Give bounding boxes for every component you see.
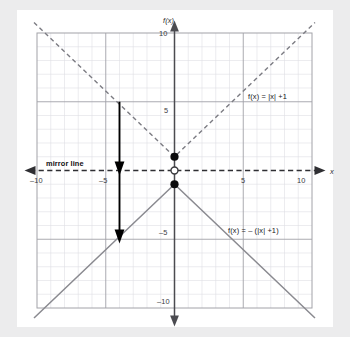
point-origin [171,167,178,174]
y-tick-neg10: –10 [157,297,170,306]
y-axis-label: f(x) [163,16,174,25]
x-tick-10: 10 [297,176,305,185]
x-axis-label: x [330,167,334,176]
mirror-line-label: mirror line [46,159,84,168]
coordinate-plane-svg [0,0,350,337]
equation-label-top: f(x) = |x| +1 [248,92,287,101]
figure-stage: f(x) x 10 5 –5 –10 –10 –5 5 10 mirror li… [0,0,350,337]
x-tick-neg5: –5 [99,176,107,185]
y-tick-neg5: –5 [159,228,167,237]
point-vertex-down [170,180,178,188]
graph-canvas [0,0,350,337]
reflection-arrow [115,102,125,244]
equation-label-bottom: f(x) = – (|x| +1) [228,226,279,235]
y-tick-10: 10 [159,29,167,38]
point-vertex-up [170,153,178,161]
x-tick-neg10: –10 [30,176,43,185]
y-tick-5: 5 [164,106,168,115]
x-tick-5: 5 [241,176,245,185]
